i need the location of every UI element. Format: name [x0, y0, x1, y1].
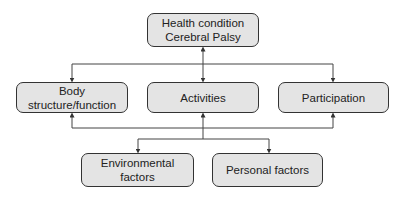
node-activities: Activities	[147, 82, 259, 113]
health-condition-value: Cerebral Palsy	[162, 30, 244, 44]
node-health-condition: Health condition Cerebral Palsy	[147, 13, 259, 47]
node-environmental-factors: Environmental factors	[81, 153, 194, 187]
environmental-factors-label: Environmental factors	[82, 156, 193, 184]
body-structure-label: Body structure/function	[17, 84, 127, 112]
participation-label: Participation	[302, 91, 365, 105]
node-personal-factors: Personal factors	[212, 153, 323, 187]
personal-factors-label: Personal factors	[226, 163, 309, 177]
activities-label: Activities	[180, 91, 225, 105]
node-body-structure-function: Body structure/function	[16, 82, 128, 113]
node-participation: Participation	[278, 82, 389, 113]
health-condition-label: Health condition	[162, 16, 244, 30]
